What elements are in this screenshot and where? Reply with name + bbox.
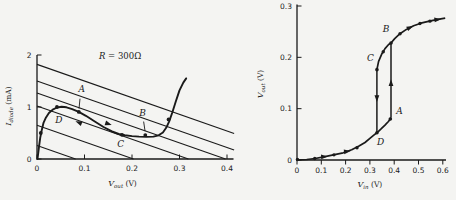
direction-arrow-icon bbox=[406, 24, 414, 31]
data-point-dot bbox=[296, 158, 299, 161]
tick-label: 2 bbox=[27, 51, 32, 60]
direction-arrow-icon bbox=[389, 79, 394, 86]
axis-label: Vout (V) bbox=[256, 70, 266, 99]
point-label-B: B bbox=[138, 108, 146, 118]
axis-label: Vin (V) bbox=[358, 180, 383, 190]
tick-label: 0.4 bbox=[221, 164, 233, 173]
axis-titles: Vout (V)Idiode (mA) bbox=[4, 86, 137, 189]
data-point-dot bbox=[418, 22, 421, 25]
tick-label: 0 bbox=[295, 166, 300, 175]
right-plot-transfer-hysteresis: 00.10.20.30.40.50.600.10.20.3ABCDVin (V)… bbox=[246, 0, 456, 200]
tick-labels: 00.10.20.30.40.50.600.10.20.3 bbox=[280, 2, 449, 175]
data-point-dot bbox=[389, 117, 393, 121]
data-point-dot bbox=[375, 131, 379, 135]
data-point-dot bbox=[332, 153, 335, 156]
tick-label: 0.1 bbox=[280, 104, 292, 113]
point-label-B: B bbox=[382, 24, 390, 34]
data-point-dot bbox=[375, 68, 379, 72]
load-lines bbox=[37, 64, 234, 159]
tick-label: 0.2 bbox=[340, 166, 352, 175]
data-point-dot bbox=[313, 157, 316, 160]
tick-labels: 00.10.20.30.4012 bbox=[27, 51, 233, 173]
tick-label: 0 bbox=[27, 155, 32, 164]
transfer-curve bbox=[297, 18, 445, 160]
data-point-dot bbox=[120, 133, 124, 137]
data-point-dot bbox=[55, 105, 59, 109]
tick-label: 0.3 bbox=[174, 164, 186, 173]
data-point-dot bbox=[398, 32, 401, 35]
axis-label: Idiode (mA) bbox=[4, 86, 14, 126]
direction-arrow-icon bbox=[321, 154, 328, 159]
data-point-dot bbox=[167, 118, 171, 122]
tick-label: 0.2 bbox=[126, 164, 138, 173]
tick-label: 0.6 bbox=[437, 166, 449, 175]
point-label-A: A bbox=[395, 106, 403, 116]
data-point-dot bbox=[355, 146, 358, 149]
tick-label: 0.2 bbox=[280, 53, 292, 62]
point-label-D: D bbox=[54, 115, 62, 125]
data-point-dot bbox=[389, 41, 393, 45]
data-point-dot bbox=[428, 19, 431, 22]
tick-label: 0.4 bbox=[388, 166, 400, 175]
point-label-A: A bbox=[77, 84, 85, 94]
axis-label: Vout (V) bbox=[108, 179, 137, 189]
tick-label: 0 bbox=[35, 164, 40, 173]
point-label-C: C bbox=[367, 53, 374, 63]
direction-arrow-icon bbox=[105, 121, 113, 128]
point-label-C: C bbox=[117, 139, 124, 149]
data-point-dot bbox=[382, 50, 385, 53]
left-plot-diode-load-lines: 00.10.20.30.4012ABCDR = 300ΩVout (V)Idio… bbox=[0, 0, 246, 200]
resistance-title: R = 300Ω bbox=[98, 51, 141, 61]
plot-title: R = 300Ω bbox=[98, 51, 141, 61]
tick-label: 1 bbox=[27, 103, 32, 112]
tick-label: 0 bbox=[287, 156, 292, 165]
tick-label: 0.3 bbox=[280, 2, 292, 11]
tick-label: 0.1 bbox=[79, 164, 91, 173]
point-label-D: D bbox=[376, 137, 384, 147]
figure-tunnel-diode-hysteresis: 00.10.20.30.4012ABCDR = 300ΩVout (V)Idio… bbox=[0, 0, 456, 200]
direction-arrow-icon bbox=[375, 95, 380, 102]
tick-label: 0.5 bbox=[413, 166, 425, 175]
data-point-dot bbox=[39, 131, 43, 135]
tick-label: 0.1 bbox=[315, 166, 327, 175]
data-point-dot bbox=[143, 133, 147, 137]
axes bbox=[297, 5, 446, 165]
tick-label: 0.3 bbox=[364, 166, 376, 175]
data-point-dot bbox=[77, 110, 81, 114]
